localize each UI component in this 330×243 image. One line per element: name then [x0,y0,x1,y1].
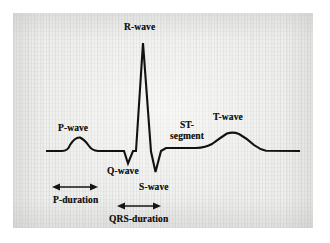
qrs-duration-arrow [117,203,161,210]
ecg-figure: R-wave P-wave Q-wave S-wave ST- segment … [0,0,330,243]
label-qrs-duration: QRS-duration [109,214,168,224]
label-st-segment-line2: segment [170,131,204,141]
label-st-segment-line1: ST- [180,120,194,130]
label-q-wave: Q-wave [107,166,139,176]
label-t-wave: T-wave [213,112,243,122]
label-st-segment: ST- segment [165,120,209,141]
label-s-wave: S-wave [139,182,169,192]
label-r-wave: R-wave [124,22,155,32]
p-duration-arrow [52,184,98,191]
label-p-duration: P-duration [53,195,98,205]
label-p-wave: P-wave [58,123,88,133]
ecg-waveform-path [46,43,300,172]
